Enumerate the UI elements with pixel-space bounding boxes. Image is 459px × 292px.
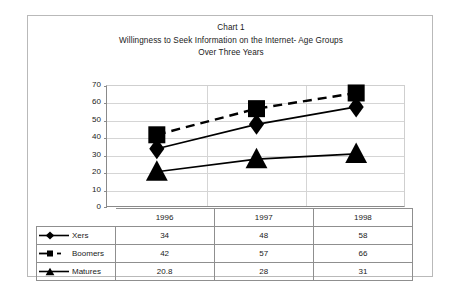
plot-wrapper: 70 60 50 40 30 20 10 0 [106,85,406,208]
legend-label-boomers: Boomers [72,249,104,258]
cell-boomers-1997: 57 [214,245,313,263]
data-point-boomers-1996 [148,126,165,143]
cell-xers-1997: 48 [214,227,313,245]
legend-label-matures: Matures [72,267,101,276]
data-point-boomers-1997 [248,100,265,117]
diamond-marker-icon [39,230,69,241]
y-tick-label-70: 70 [77,80,101,89]
chart-title-line-1: Chart 1 [28,22,434,35]
table-header-1996: 1996 [115,209,214,227]
cell-xers-1996: 34 [115,227,214,245]
chart-title-line-3: Over Three Years [28,47,434,60]
y-tick-label-60: 60 [77,97,101,106]
data-point-matures-1997 [246,148,268,168]
chart-title-block: Chart 1 Willingness to Seek Information … [28,22,434,60]
y-tick-label-10: 10 [77,185,101,194]
chart-frame: Chart 1 Willingness to Seek Information … [27,15,433,277]
triangle-marker-icon [39,266,69,277]
y-tick-label-50: 50 [77,115,101,124]
cell-matures-1998: 31 [313,263,412,281]
table-header-1998: 1998 [313,209,412,227]
legend-entry-matures[interactable]: Matures [37,263,116,281]
cell-boomers-1998: 66 [313,245,412,263]
cell-matures-1997: 28 [214,263,313,281]
legend-label-xers: Xers [72,231,88,240]
plot-area [106,85,405,207]
table-row: Xers 34 48 58 [37,227,413,245]
y-tick-label-40: 40 [77,132,101,141]
chart-data-table: 1996 1997 1998 Xers 34 [36,208,413,281]
table-header-row: 1996 1997 1998 [37,209,413,227]
table-row: Boomers 42 57 66 [37,245,413,263]
table-row: Matures 20.8 28 31 [37,263,413,281]
chart-title-line-2: Willingness to Seek Information on the I… [28,35,434,48]
cell-xers-1998: 58 [313,227,412,245]
series-layer [107,86,406,208]
legend-entry-xers[interactable]: Xers [37,227,116,245]
y-tick-label-20: 20 [77,167,101,176]
legend-entry-boomers[interactable]: Boomers [37,245,116,263]
data-point-matures-1998 [345,142,367,162]
cell-matures-1996: 20.8 [115,263,214,281]
series-markers [146,84,367,180]
table-header-1997: 1997 [214,209,313,227]
y-tick-label-30: 30 [77,150,101,159]
table-corner-cell [37,209,116,227]
data-point-boomers-1998 [348,84,365,101]
cell-boomers-1996: 42 [115,245,214,263]
chart-screenshot: Chart 1 Willingness to Seek Information … [0,0,459,292]
square-marker-icon [39,248,69,259]
